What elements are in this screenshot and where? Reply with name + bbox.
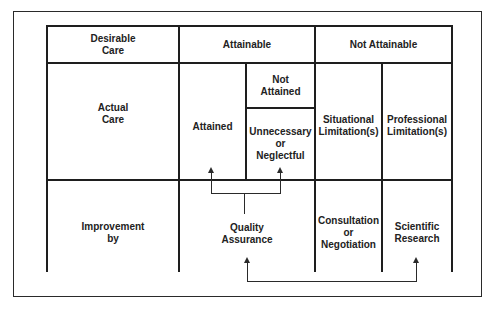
qa-bottom-arrow-shaft <box>247 262 248 282</box>
actual-care-label: Actual Care <box>48 64 178 164</box>
bottom-bracket-horizontal <box>247 281 417 282</box>
attainable-header: Attainable <box>180 27 314 62</box>
desirable-care-label: Desirable Care <box>48 27 178 62</box>
research-arrow-shaft <box>416 262 417 282</box>
quality-assurance-cell: Quality Assurance <box>180 219 314 249</box>
qa-bracket-horizontal <box>211 193 281 194</box>
qa-stem-line <box>244 193 245 214</box>
arrow-up-icon <box>413 257 419 263</box>
neglectful-arrow-shaft <box>280 171 281 193</box>
not-attained-cell: Not Attained <box>247 64 314 107</box>
situational-limitations-cell: Situational Limitation(s) <box>316 64 381 188</box>
professional-limitations-cell: Professional Limitation(s) <box>383 64 451 188</box>
arrow-up-icon <box>277 167 283 173</box>
arrow-up-icon <box>208 167 214 173</box>
not-attainable-header: Not Attainable <box>316 27 451 62</box>
improvement-by-label: Improvement by <box>48 220 178 246</box>
consultation-negotiation-cell: Consultation or Negotiation <box>316 213 381 253</box>
attained-arrow-shaft <box>211 171 212 193</box>
col-line-right <box>451 25 453 272</box>
scientific-research-cell: Scientific Research <box>383 218 451 248</box>
arrow-up-icon <box>244 257 250 263</box>
